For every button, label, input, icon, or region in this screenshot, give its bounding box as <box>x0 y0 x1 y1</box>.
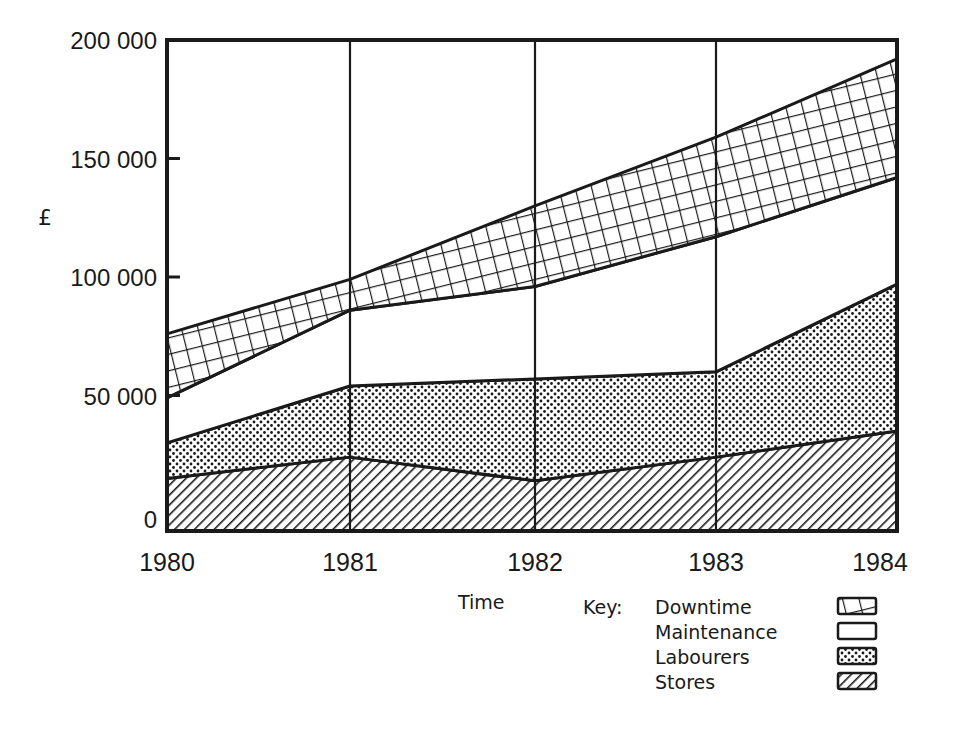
y-tick-label: 200 000 <box>70 27 157 54</box>
y-tick-label: 50 000 <box>84 383 157 410</box>
x-axis: 19801981198219831984 <box>139 548 908 576</box>
legend-item-stores: Stores <box>655 671 715 693</box>
legend-item-downtime: Downtime <box>655 596 752 618</box>
y-tick-label: 150 000 <box>70 146 157 173</box>
y-axis-label: £ <box>38 205 52 230</box>
y-tick-label: 100 000 <box>70 264 157 291</box>
x-tick-label: 1981 <box>322 548 378 576</box>
legend-swatch-maintenance <box>838 623 876 639</box>
legend-swatch-labourers <box>838 648 876 664</box>
legend-title: Key: <box>583 596 622 618</box>
x-tick-label: 1984 <box>852 548 908 576</box>
legend-item-maintenance: Maintenance <box>655 621 777 643</box>
legend: DowntimeMaintenanceLabourersStores <box>655 596 876 693</box>
legend-swatch-downtime <box>838 598 876 614</box>
chart-canvas: 200 000150 000100 00050 0000 19801981198… <box>0 0 958 730</box>
legend-item-labourers: Labourers <box>655 646 750 668</box>
x-tick-label: 1980 <box>139 548 195 576</box>
y-tick-label: 0 <box>144 506 157 533</box>
x-tick-label: 1983 <box>688 548 744 576</box>
x-tick-label: 1982 <box>507 548 563 576</box>
y-axis: 200 000150 000100 00050 0000 <box>70 27 180 533</box>
x-axis-title: Time <box>457 591 505 613</box>
legend-swatch-stores <box>838 673 876 689</box>
stacked-areas <box>167 59 897 531</box>
